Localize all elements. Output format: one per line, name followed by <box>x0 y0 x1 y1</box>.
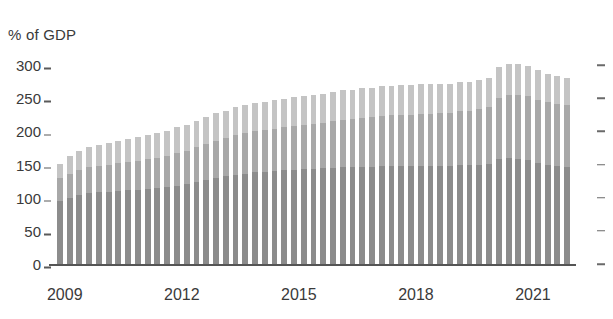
bar-segment-series_0 <box>437 166 443 264</box>
bar-segment-series_1 <box>554 104 560 166</box>
bar-segment-series_0 <box>252 172 258 264</box>
bar <box>135 137 141 264</box>
bar <box>311 95 317 264</box>
bar-segment-series_0 <box>398 166 404 264</box>
bar-segment-series_0 <box>369 167 375 265</box>
bar <box>525 66 531 264</box>
bar-segment-series_1 <box>115 163 121 191</box>
bar <box>301 96 307 264</box>
right-axis-tick-mark <box>597 164 605 166</box>
bar-segment-series_1 <box>223 138 229 176</box>
bar-segment-series_2 <box>476 80 482 109</box>
y-tick-value: 0 <box>10 256 41 273</box>
bar-segment-series_2 <box>57 164 63 179</box>
x-axis-tick-label: 2012 <box>164 286 200 304</box>
bar-segment-series_0 <box>457 165 463 264</box>
bar <box>437 84 443 264</box>
bar-segment-series_1 <box>486 107 492 163</box>
y-axis-tick-label: 50 <box>10 222 55 239</box>
bar-segment-series_1 <box>194 147 200 181</box>
bar-segment-series_1 <box>135 161 141 190</box>
bar-segment-series_0 <box>535 163 541 264</box>
bar <box>506 64 512 264</box>
bar-segment-series_2 <box>86 147 92 168</box>
bar-segment-series_2 <box>359 88 365 118</box>
bar-segment-series_1 <box>506 95 512 158</box>
bar-segment-series_2 <box>379 86 385 116</box>
bar-segment-series_2 <box>184 125 190 151</box>
bar-segment-series_0 <box>164 187 170 264</box>
bar-segment-series_1 <box>447 113 453 166</box>
bar-segment-series_0 <box>281 170 287 264</box>
bar-segment-series_0 <box>525 160 531 264</box>
bar <box>320 94 326 264</box>
bar-segment-series_1 <box>457 111 463 165</box>
bar-segment-series_0 <box>174 186 180 264</box>
bar <box>233 107 239 264</box>
bar-segment-series_0 <box>564 167 570 265</box>
bar-segment-series_2 <box>272 100 278 129</box>
bar-segment-series_1 <box>96 166 102 193</box>
bar <box>262 102 268 265</box>
y-axis-tick-label: 150 <box>10 156 55 173</box>
bar-segment-series_2 <box>203 117 209 144</box>
bar <box>457 82 463 264</box>
bar-segment-series_1 <box>291 126 297 170</box>
bar <box>476 80 482 264</box>
bar <box>535 70 541 264</box>
bar-segment-series_0 <box>135 190 141 264</box>
bar-segment-series_2 <box>535 70 541 99</box>
bar-segment-series_1 <box>359 118 365 166</box>
y-tick-mark <box>44 267 51 269</box>
bar-segment-series_0 <box>272 171 278 264</box>
bar <box>203 117 209 264</box>
bar-segment-series_2 <box>252 103 258 131</box>
bar-segment-series_2 <box>428 84 434 114</box>
y-axis-tick-label: 300 <box>10 57 55 74</box>
bar-segment-series_2 <box>330 92 336 122</box>
bar <box>223 111 229 264</box>
bar-segment-series_1 <box>301 125 307 169</box>
bar <box>330 92 336 264</box>
bar-segment-series_2 <box>223 111 229 138</box>
bar <box>76 151 82 264</box>
bar-segment-series_1 <box>320 123 326 169</box>
bar-segment-series_0 <box>447 166 453 264</box>
y-tick-mark <box>44 167 51 169</box>
bar <box>115 141 121 264</box>
bar-segment-series_1 <box>330 121 336 167</box>
y-axis-tick-label: 200 <box>10 123 55 140</box>
y-tick-mark <box>44 134 51 136</box>
bar-segment-series_2 <box>213 113 219 140</box>
bar-segment-series_1 <box>525 96 531 160</box>
bar-segment-series_1 <box>281 127 287 170</box>
bar-segment-series_0 <box>506 158 512 264</box>
bar-segment-series_2 <box>311 95 317 124</box>
bar-segment-series_0 <box>428 166 434 264</box>
bar-segment-series_0 <box>467 165 473 264</box>
bar-segment-series_0 <box>486 164 492 264</box>
bar-segment-series_2 <box>408 85 414 115</box>
bar-segment-series_2 <box>154 133 160 158</box>
bar-segment-series_0 <box>554 166 560 264</box>
bar-segment-series_0 <box>291 170 297 264</box>
bar <box>554 76 560 264</box>
bar-segment-series_2 <box>96 145 102 166</box>
bar <box>96 145 102 264</box>
plot-area: 050100150200250300 <box>55 60 590 264</box>
bar-segment-series_1 <box>545 102 551 164</box>
bar-segment-series_2 <box>67 156 73 174</box>
bar-segment-series_1 <box>428 114 434 166</box>
bar-segment-series_2 <box>418 84 424 114</box>
bar-segment-series_2 <box>145 135 151 159</box>
bar <box>428 84 434 264</box>
bar <box>418 84 424 264</box>
bar-segment-series_1 <box>67 174 73 198</box>
bar-segment-series_0 <box>106 192 112 264</box>
bar <box>467 82 473 264</box>
bar <box>359 88 365 264</box>
bar-segment-series_0 <box>154 188 160 264</box>
bar-segment-series_0 <box>145 189 151 264</box>
bar-segment-series_1 <box>379 116 385 166</box>
right-axis-tick-mark <box>597 197 605 199</box>
